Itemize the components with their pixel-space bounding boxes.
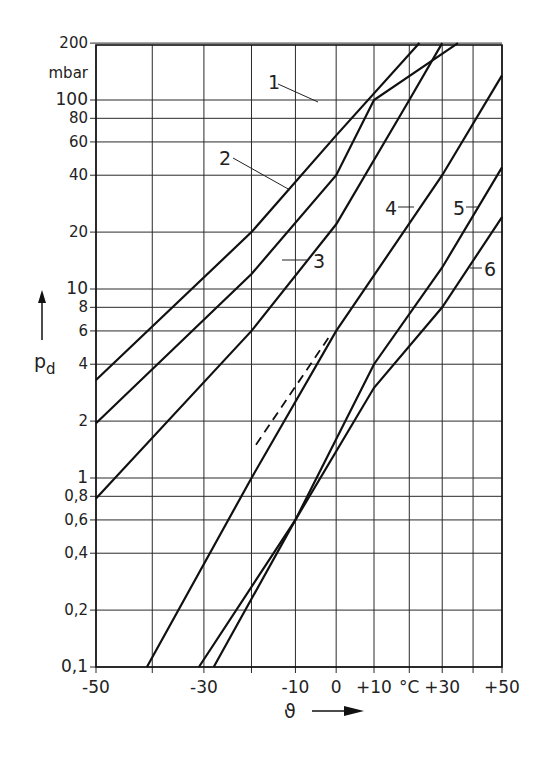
y-tick-label: 40 [69, 166, 88, 184]
arrow-right-icon [344, 706, 364, 716]
plot-frame [96, 45, 502, 667]
y-tick-label: 6 [78, 322, 88, 340]
y-tick-label: 8 [78, 298, 88, 316]
curve-4 [147, 75, 502, 667]
y-tick-label: 0,2 [64, 601, 88, 619]
curve-label: 1 [268, 71, 280, 93]
curve-5 [199, 167, 502, 667]
y-tick-label: 10 [66, 278, 88, 298]
vapor-pressure-chart: 2001008060402010864210,80,60,40,20,1mbar… [0, 0, 541, 760]
x-tick-label: °C [399, 677, 419, 697]
x-tick-label: -50 [82, 677, 110, 697]
curves [96, 43, 502, 667]
arrow-up-icon [38, 290, 46, 303]
y-tick-label: 60 [69, 133, 88, 151]
y-tick-label: 0,6 [64, 511, 88, 529]
y-tick-label: 0,1 [61, 656, 88, 676]
x-tick-label: +50 [484, 677, 520, 697]
x-axis-ticks: -50-30-100+10°C+30+50 [82, 677, 520, 697]
x-tick-label: -30 [190, 677, 218, 697]
y-tick-label: 100 [56, 89, 88, 109]
y-axis-symbol-subscript: d [46, 360, 56, 378]
y-tick-label: 1 [77, 467, 88, 487]
curve-3 [96, 43, 442, 498]
x-axis-label: ϑ [284, 700, 364, 722]
x-tick-label: -10 [282, 677, 310, 697]
curve-label: 6 [484, 258, 496, 280]
x-tick-label: +30 [424, 677, 460, 697]
y-tick-label: 4 [78, 355, 88, 373]
curve-label: 2 [219, 147, 231, 169]
x-tick-label: 0 [331, 677, 342, 697]
gridlines [90, 43, 502, 673]
curve-label: 5 [453, 197, 465, 219]
curve-label: 4 [385, 197, 397, 219]
y-tick-label: 2 [78, 412, 88, 430]
y-tick-label: 20 [69, 223, 88, 241]
y-unit-label: mbar [49, 64, 89, 82]
label-leader-line [278, 84, 318, 102]
y-tick-label: 0,8 [64, 487, 88, 505]
y-axis-ticks: 2001008060402010864210,80,60,40,20,1mbar [49, 34, 89, 676]
y-axis-symbol: p [34, 350, 46, 372]
label-leader-line [233, 158, 290, 190]
x-axis-symbol: ϑ [284, 700, 296, 722]
curve-4-dashed [256, 338, 328, 445]
x-tick-label: +10 [356, 677, 392, 697]
y-axis-label: p d [34, 290, 56, 378]
curve-label: 3 [313, 250, 325, 272]
curve-1 [96, 43, 419, 380]
y-tick-label: 0,4 [64, 544, 88, 562]
y-tick-label: 80 [69, 109, 88, 127]
y-tick-label: 200 [59, 34, 88, 52]
